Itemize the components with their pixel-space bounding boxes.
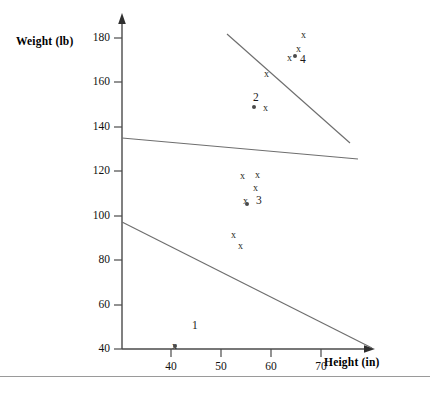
y-tick-label-100: 100 <box>76 209 110 221</box>
scatter-plot-figure: Weight (lb) Height (in) 180 160 140 120 … <box>0 0 430 394</box>
cluster-centroid-dot <box>173 344 177 348</box>
data-point-marker: x <box>255 170 260 180</box>
middle-boundary-line <box>122 138 358 159</box>
data-point-marker: x <box>264 69 269 79</box>
y-tick-label-180: 180 <box>76 31 110 43</box>
y-tick-label-60: 60 <box>76 298 110 310</box>
plot-canvas <box>0 0 430 394</box>
cluster-label-3: 3 <box>256 195 262 206</box>
y-tick-label-160: 160 <box>76 75 110 87</box>
data-point-marker: x <box>301 30 306 40</box>
y-tick-marks <box>114 38 122 349</box>
cluster-centroid-dot <box>293 54 297 58</box>
x-tick-label-70: 70 <box>306 360 336 372</box>
cluster-label-4: 4 <box>300 54 306 65</box>
y-axis <box>118 13 126 349</box>
data-point-marker: x <box>238 241 243 251</box>
data-point-marker: x <box>253 183 258 193</box>
upper-boundary-line <box>227 34 350 143</box>
data-point-marker: x <box>231 230 236 240</box>
x-tick-label-40: 40 <box>156 360 186 372</box>
page-divider <box>0 376 430 377</box>
cluster-centroid-dot <box>245 202 249 206</box>
cluster-label-1: 1 <box>192 320 198 331</box>
lower-boundary-line <box>122 222 372 348</box>
y-tick-label-140: 140 <box>76 120 110 132</box>
data-point-marker: x <box>240 171 245 181</box>
x-axis <box>122 345 375 353</box>
y-tick-label-120: 120 <box>76 164 110 176</box>
data-point-marker: x <box>287 53 292 63</box>
x-tick-label-50: 50 <box>206 360 236 372</box>
y-tick-label-80: 80 <box>76 253 110 265</box>
cluster-centroid-dot <box>252 105 256 109</box>
cluster-label-2: 2 <box>253 92 259 103</box>
y-axis-title: Weight (lb) <box>16 35 73 47</box>
y-tick-label-40: 40 <box>76 342 110 354</box>
x-tick-label-60: 60 <box>256 360 286 372</box>
data-point-marker: x <box>263 103 268 113</box>
x-tick-marks <box>171 349 321 357</box>
